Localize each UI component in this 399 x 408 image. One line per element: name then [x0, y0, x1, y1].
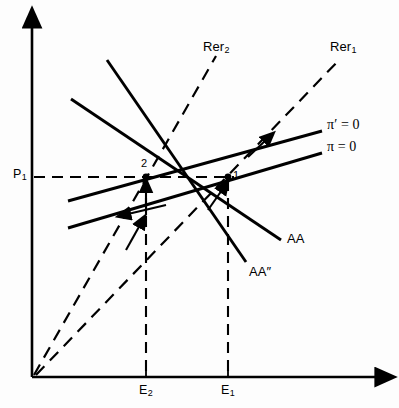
- aa-double-prime-label: AA″: [249, 265, 271, 278]
- rer2-label: Rer2: [203, 40, 229, 53]
- solid-curves: [68, 60, 322, 262]
- point-1-label: 1: [233, 170, 239, 181]
- economic-phase-diagram: Rer2 Rer1 π′ = 0 π = 0 AA AA″ P1 E2 E1 2…: [0, 0, 399, 408]
- aa-label: AA: [287, 232, 305, 245]
- e1-axis-label: E1: [221, 384, 235, 397]
- rer1-label: Rer1: [330, 40, 356, 53]
- point-1-dot: [225, 174, 232, 181]
- p1-axis-label: P1: [13, 168, 27, 181]
- aa-double-prime-line: [107, 60, 246, 262]
- arrow-on-rer2-toward-point2: [126, 225, 140, 250]
- point-2-label: 2: [141, 158, 147, 169]
- e2-axis-label: E2: [139, 384, 153, 397]
- point-2-dot: [143, 174, 150, 181]
- diagram-canvas: [0, 0, 399, 408]
- pi-prime-zero-label: π′ = 0: [327, 118, 360, 132]
- pi-zero-label: π = 0: [327, 140, 356, 154]
